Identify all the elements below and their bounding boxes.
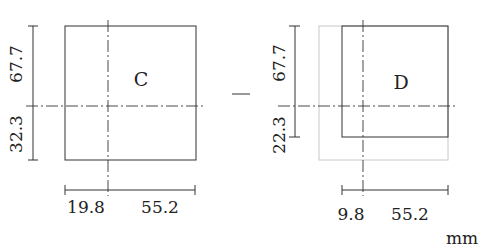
box-c [65,26,196,160]
panel-c: C 67.7 32.3 19.8 55.2 [6,20,205,217]
panel-d: D 67.7 22.3 9.8 55.2 [269,20,458,224]
dim-top-d: 67.7 [269,44,289,82]
ghost-box-d [319,26,448,160]
dim-right-d: 55.2 [391,204,429,224]
dim-right-c: 55.2 [141,197,179,217]
dim-left-d: 9.8 [337,204,364,224]
panel-label-c: C [134,68,149,90]
dim-bottom-d: 22.3 [269,116,289,154]
panel-label-d: D [393,71,408,93]
dim-top-c: 67.7 [6,45,26,83]
dim-bottom-c: 32.3 [6,115,26,153]
dim-left-c: 19.8 [67,197,105,217]
unit-label: mm [446,228,478,248]
diagram-canvas: C 67.7 32.3 19.8 55.2 D 67.7 22.3 9.8 55… [0,0,485,249]
